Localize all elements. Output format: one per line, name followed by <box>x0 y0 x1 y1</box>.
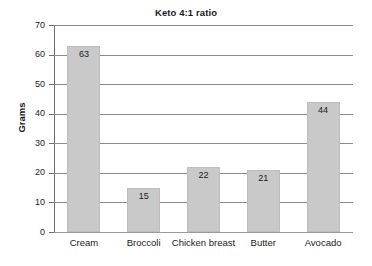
gridline <box>54 232 353 233</box>
plot-area: 6315222144 <box>54 25 353 232</box>
y-tick-label: 70 <box>0 21 45 30</box>
bar: 44 <box>307 102 340 232</box>
bar-value-label: 15 <box>128 192 159 201</box>
x-tick-label: Avocado <box>263 237 372 248</box>
bar-value-label: 63 <box>68 50 99 59</box>
bar-value-label: 22 <box>188 171 219 180</box>
bar: 22 <box>187 167 220 232</box>
bar-value-label: 44 <box>308 106 339 115</box>
y-tick-label: 50 <box>0 80 45 89</box>
y-tick-label: 10 <box>0 198 45 207</box>
bar: 21 <box>247 170 280 232</box>
bar-value-label: 21 <box>248 174 279 183</box>
y-tick-label: 40 <box>0 109 45 118</box>
chart-title: Keto 4:1 ratio <box>0 7 372 18</box>
y-tick-label: 0 <box>0 228 45 237</box>
y-tick-label: 30 <box>0 139 45 148</box>
y-tick-label: 20 <box>0 168 45 177</box>
gridline <box>54 25 353 26</box>
bar-chart: Keto 4:1 ratio Grams 706050403020100 631… <box>0 0 372 266</box>
bar: 15 <box>127 188 160 232</box>
y-tick-label: 60 <box>0 50 45 59</box>
bar: 63 <box>67 46 100 232</box>
